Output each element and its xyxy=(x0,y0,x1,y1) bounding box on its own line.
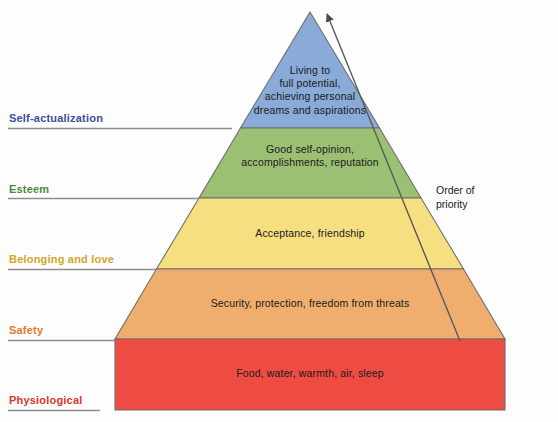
pyramid-tier-self-actualization xyxy=(241,12,380,128)
order-of-priority-label: Order of priority xyxy=(436,184,475,211)
maslow-pyramid-diagram: Living to full potential, achieving pers… xyxy=(0,0,558,422)
level-label-physiological: Physiological xyxy=(9,394,83,406)
level-label-belonging-and-love: Belonging and love xyxy=(9,253,114,265)
pyramid-tier-belonging-and-love xyxy=(157,198,464,269)
pyramid-graphic xyxy=(0,0,558,422)
pyramid-tier-physiological xyxy=(115,339,505,410)
level-label-safety: Safety xyxy=(9,324,43,336)
pyramid-tier-safety xyxy=(115,269,505,339)
level-label-esteem: Esteem xyxy=(9,183,49,195)
level-label-self-actualization: Self-actualization xyxy=(9,112,103,124)
